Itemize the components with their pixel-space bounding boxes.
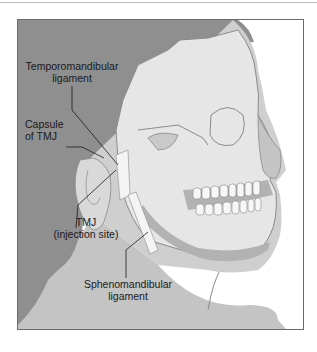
top-rule [0, 2, 317, 3]
label-temporomandibular-ligament: Temporomandibular ligament [22, 60, 122, 84]
label-capsule-of-tmj: Capsule of TMJ [25, 118, 64, 142]
figure-frame: Temporomandibular ligament Capsule of TM… [17, 19, 304, 330]
label-sphenomandibular-ligament: Sphenomandibular ligament [78, 278, 178, 302]
label-tmj-injection-site: TMJ (injection site) [51, 216, 121, 240]
